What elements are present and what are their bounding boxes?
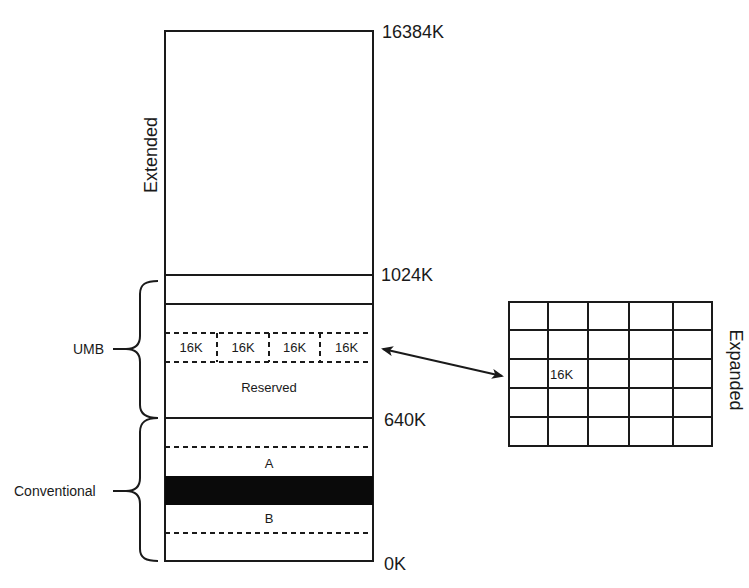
page-frame-block-3: 16K (269, 341, 320, 354)
block-b-label: B (165, 512, 373, 525)
memory-map-diagram (0, 0, 749, 588)
conventional-brace-icon (126, 418, 158, 561)
address-label-640k: 640K (384, 411, 426, 429)
expanded-memory-grid (509, 302, 712, 446)
expanded-page-label: 16K (549, 368, 590, 381)
extended-region-label: Extended (142, 107, 160, 203)
block-a-label: A (165, 457, 373, 470)
conventional-label: Conventional (14, 484, 96, 498)
page-frame-block-2: 16K (217, 341, 269, 354)
reserved-label: Reserved (165, 381, 373, 394)
umb-brace-icon (126, 281, 158, 418)
expanded-region-label: Expanded (727, 322, 745, 418)
allocated-block-black (165, 476, 373, 505)
page-frame-block-1: 16K (165, 341, 217, 354)
page-frame-block-4: 16K (320, 341, 373, 354)
page-mapping-double-arrow-icon (383, 349, 502, 376)
address-label-1024k: 1024K (381, 266, 433, 284)
umb-label: UMB (73, 342, 104, 356)
address-label-16384k: 16384K (382, 23, 444, 41)
address-label-0k: 0K (384, 555, 406, 573)
